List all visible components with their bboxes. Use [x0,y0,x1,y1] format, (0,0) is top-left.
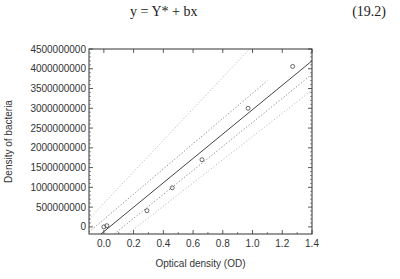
x-tick-label: 0.0 [97,238,111,249]
data-point [246,106,250,110]
y-axis: 0500000000100000000015000000002000000000… [30,44,312,233]
x-tick-label: 1.0 [246,238,260,249]
prediction-band-upper [89,49,250,219]
x-tick-label: 0.2 [127,238,141,249]
y-tick-label: 2500000000 [30,123,86,134]
y-tick-label: 4500000000 [30,44,86,55]
points-layer [102,64,295,228]
x-tick-label: 0.6 [186,238,200,249]
regression-line [101,61,312,234]
prediction-band-lower [128,90,312,234]
data-point [145,209,149,213]
x-axis-label: Optical density (OD) [155,258,245,269]
y-tick-label: 3000000000 [30,103,86,114]
y-tick-label: 2000000000 [30,142,86,153]
data-point [291,64,295,68]
scatter-chart: 0.00.20.40.60.81.01.21.4 050000000010000… [0,0,400,279]
y-axis-label: Density of bacteria [3,100,14,183]
y-tick-label: 1000000000 [30,182,86,193]
data-point [200,158,204,162]
y-tick-label: 500000000 [36,202,86,213]
bands-layer [89,49,312,234]
confidence-band-lower [114,74,312,234]
x-axis: 0.00.20.40.60.81.01.21.4 [97,49,319,249]
y-tick-label: 0 [80,221,86,232]
x-tick-label: 1.4 [305,238,319,249]
x-tick-label: 1.2 [275,238,289,249]
x-tick-label: 0.8 [216,238,230,249]
y-tick-label: 3500000000 [30,83,86,94]
x-tick-label: 0.4 [156,238,170,249]
confidence-band-upper [89,81,267,232]
plot-frame [89,49,312,234]
y-tick-label: 4000000000 [30,63,86,74]
lines-layer [101,61,312,234]
y-tick-label: 1500000000 [30,162,86,173]
